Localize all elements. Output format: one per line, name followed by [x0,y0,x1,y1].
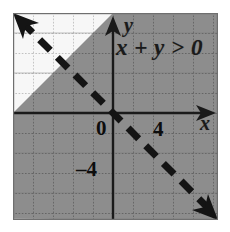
y-axis-tick-label-negative-4: –4 [76,159,97,180]
inequality-expression-label: x + y > 0 [116,36,203,59]
inequality-graph-figure: x + y > 0 y x 0 4 –4 [0,0,230,232]
y-axis-label: y [124,15,133,35]
x-axis-tick-label-4: 4 [153,119,164,140]
origin-tick-label: 0 [96,118,107,139]
x-axis-label: x [200,113,210,133]
